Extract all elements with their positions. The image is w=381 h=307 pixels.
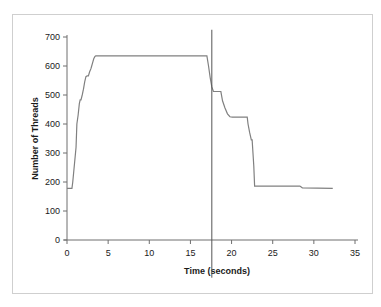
x-tick-label: 0 <box>64 248 69 258</box>
series-line-0 <box>67 56 333 189</box>
y-tick-label: 200 <box>45 177 60 187</box>
y-tick-label: 500 <box>45 90 60 100</box>
y-tick-label: 400 <box>45 119 60 129</box>
plot-area: 010020030040050060070005101520253035Time… <box>0 0 381 307</box>
x-tick-label: 30 <box>309 248 319 258</box>
x-tick-label: 10 <box>144 248 154 258</box>
y-tick-label: 600 <box>45 61 60 71</box>
x-axis-title: Time (seconds) <box>184 266 250 276</box>
y-tick-label: 700 <box>45 32 60 42</box>
x-tick-label: 20 <box>227 248 237 258</box>
y-tick-label: 0 <box>55 235 60 245</box>
y-tick-label: 300 <box>45 148 60 158</box>
x-tick-label: 5 <box>106 248 111 258</box>
x-tick-label: 25 <box>268 248 278 258</box>
y-tick-label: 100 <box>45 206 60 216</box>
chart-page: 010020030040050060070005101520253035Time… <box>0 0 381 307</box>
y-axis-title: Number of Threads <box>30 97 40 180</box>
x-tick-label: 35 <box>350 248 360 258</box>
x-tick-label: 15 <box>185 248 195 258</box>
line-chart: 010020030040050060070005101520253035Time… <box>0 0 381 307</box>
